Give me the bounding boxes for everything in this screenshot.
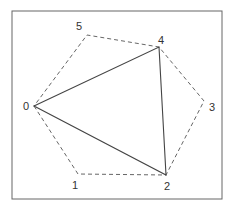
diagram-frame [12, 11, 222, 199]
vertex-label-2: 2 [164, 180, 170, 192]
vertex-label-1: 1 [72, 179, 78, 191]
vertex-label-3: 3 [209, 101, 215, 113]
hexagon-dashed [34, 35, 204, 175]
vertex-label-4: 4 [158, 34, 164, 46]
vertex-labels: 0 1 2 3 4 5 [23, 20, 215, 192]
vertex-label-5: 5 [76, 20, 82, 32]
hexagon-triangle-diagram: 0 1 2 3 4 5 [0, 0, 234, 206]
triangle-solid [34, 47, 166, 175]
vertex-label-0: 0 [23, 100, 29, 112]
